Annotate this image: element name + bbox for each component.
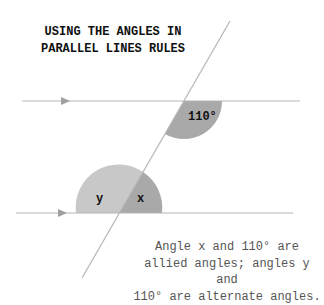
caption-line-3: 110° are alternate angles. [130, 289, 324, 305]
title-line-2: PARALLEL LINES RULES [41, 42, 185, 56]
explanation-caption: Angle x and 110° are allied angles; angl… [130, 239, 324, 305]
caption-line-1: Angle x and 110° are [130, 239, 324, 256]
angle-y-label: y [96, 192, 103, 206]
title-line-1: USING THE ANGLES IN [45, 25, 182, 39]
parallel-arrow-icon-upper [61, 97, 70, 105]
angle-110-label: 110° [188, 110, 217, 124]
angle-x-label: x [137, 192, 144, 206]
diagram-title: USING THE ANGLES IN PARALLEL LINES RULES [28, 24, 198, 58]
parallel-arrow-icon-lower [58, 209, 67, 217]
parallel-lines-diagram: USING THE ANGLES IN PARALLEL LINES RULES… [0, 0, 324, 305]
caption-line-2: allied angles; angles y and [130, 256, 324, 289]
